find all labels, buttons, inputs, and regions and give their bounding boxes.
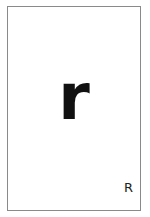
letter-card: r R bbox=[7, 6, 141, 211]
uppercase-letter-label: R bbox=[124, 181, 133, 194]
lowercase-letter: r bbox=[8, 65, 140, 129]
